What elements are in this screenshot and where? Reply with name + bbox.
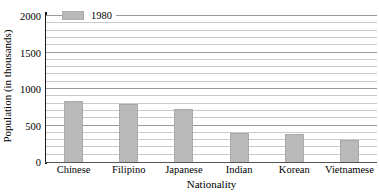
legend-label-1980: 1980 [91,10,112,21]
x-axis-line [45,162,377,163]
x-tick-label-japanese: Japanese [165,164,202,175]
x-tick-label-filipino: Filipino [112,164,145,175]
legend: 1980 [62,9,116,21]
bar-indian [230,133,249,162]
x-axis-tick-labels: ChineseFilipinoJapaneseIndianKoreanVietn… [46,164,377,178]
bar-korean [285,134,304,162]
x-axis-title: Nationality [46,178,377,190]
bar-series-1980 [46,16,377,162]
plot-area [46,16,377,162]
legend-swatch-1980 [62,11,84,20]
y-tick-label-1500: 1500 [20,47,41,58]
x-tick-label-chinese: Chinese [57,164,91,175]
bar-japanese [174,109,193,162]
y-axis-tick-labels: 0500100015002000 [14,0,44,172]
y-axis-title-text: Population (in thousands) [1,29,13,142]
bar-chart: Population (in thousands) 05001000150020… [0,0,379,193]
y-tick-label-2000: 2000 [20,11,41,22]
x-tick-label-korean: Korean [279,164,310,175]
x-tick-label-indian: Indian [226,164,253,175]
bar-vietnamese [340,140,359,162]
x-tick-label-vietnamese: Vietnamese [325,164,374,175]
y-tick-label-500: 500 [25,120,41,131]
y-tick-label-1000: 1000 [20,84,41,95]
y-axis-title: Population (in thousands) [0,0,14,172]
y-tick-label-0: 0 [36,157,41,168]
bar-filipino [119,104,138,162]
bar-chinese [64,101,83,162]
